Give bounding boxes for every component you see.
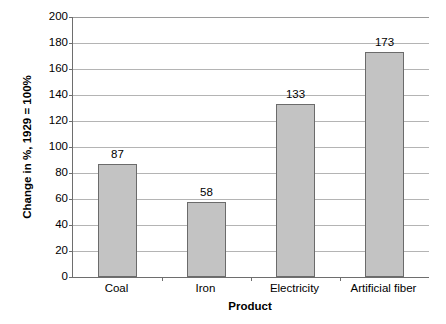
y-axis-tick-label: 0 [34, 271, 68, 282]
gridline [73, 17, 429, 18]
x-axis-tick-mark [162, 277, 163, 281]
y-axis-tick-label: 200 [34, 11, 68, 22]
y-axis-tick-label: 100 [34, 141, 68, 152]
y-axis-tick-mark [69, 225, 73, 226]
bar [187, 202, 226, 277]
y-axis-tick-mark [69, 199, 73, 200]
bar-value-label: 173 [355, 36, 415, 48]
y-axis-tick-label: 120 [34, 115, 68, 126]
y-axis-tick-label: 180 [34, 37, 68, 48]
x-axis-title: Product [228, 300, 271, 313]
y-axis-tick-labels: 020406080100120140160180200 [30, 0, 68, 324]
y-axis-tick-label: 20 [34, 245, 68, 256]
y-axis-tick-mark [69, 251, 73, 252]
y-axis-tick-mark [69, 277, 73, 278]
y-axis-tick-label: 160 [34, 63, 68, 74]
bar-value-label: 58 [177, 186, 237, 198]
y-axis-tick-mark [69, 43, 73, 44]
y-axis-tick-label: 40 [34, 219, 68, 230]
y-axis-tick-label: 140 [34, 89, 68, 100]
y-axis-tick-mark [69, 69, 73, 70]
x-axis-title-wrap: Product [0, 300, 446, 313]
y-axis-tick-mark [69, 17, 73, 18]
y-axis-tick-mark [69, 95, 73, 96]
plot-area: 8758133173 [72, 17, 429, 278]
bar [276, 104, 315, 277]
x-axis-tick-mark [340, 277, 341, 281]
y-axis-tick-mark [69, 173, 73, 174]
bar-value-label: 133 [266, 88, 326, 100]
bar-chart: Change in %, 1929 = 100% 020406080100120… [0, 0, 446, 324]
bar [365, 52, 404, 277]
bar-value-label: 87 [88, 148, 148, 160]
y-axis-tick-label: 60 [34, 193, 68, 204]
x-axis-tick-mark [251, 277, 252, 281]
bar [98, 164, 137, 277]
y-axis-tick-mark [69, 121, 73, 122]
x-axis-tick-label: Artificial fiber [324, 282, 444, 295]
y-axis-tick-label: 80 [34, 167, 68, 178]
y-axis-tick-mark [69, 147, 73, 148]
